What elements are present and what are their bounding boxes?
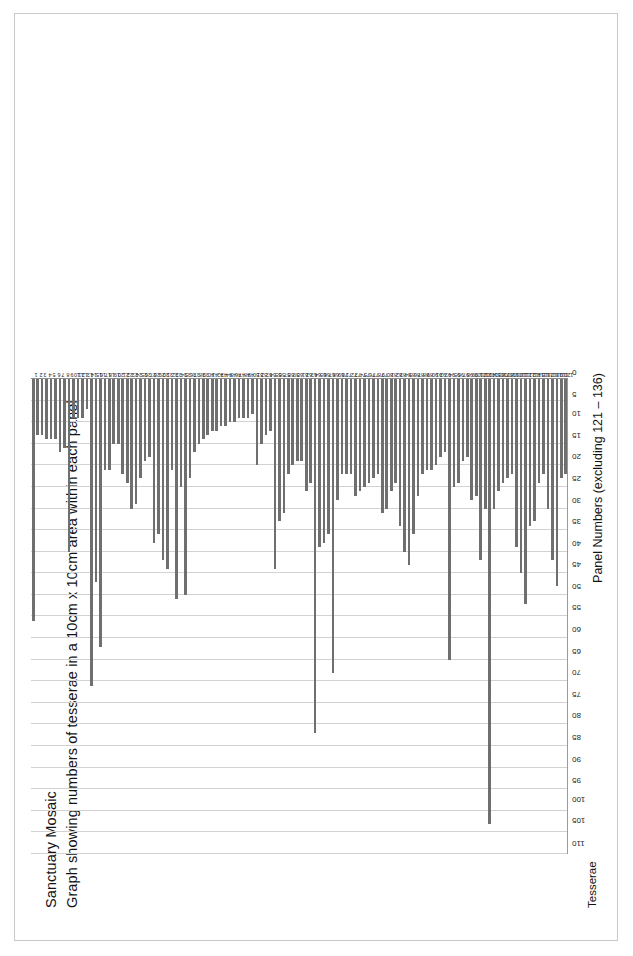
bar	[399, 379, 402, 526]
bar	[135, 379, 138, 504]
bar	[426, 379, 429, 470]
chart-page-frame: Sanctuary Mosaic Graph showing numbers o…	[14, 13, 618, 941]
value-tick-label-40: 40	[572, 538, 581, 547]
bar	[511, 379, 514, 474]
bar	[484, 379, 487, 509]
bar	[283, 379, 286, 513]
bar	[121, 379, 124, 474]
bar	[533, 379, 536, 522]
bar	[256, 379, 259, 465]
bar	[421, 379, 424, 474]
bar	[515, 379, 518, 547]
bar	[542, 379, 545, 474]
bar	[529, 379, 532, 526]
bar	[166, 379, 169, 569]
bar	[305, 379, 308, 491]
bar	[198, 379, 201, 444]
bar	[354, 379, 357, 496]
bar	[32, 379, 35, 621]
bar	[36, 379, 39, 435]
bar	[403, 379, 406, 552]
bar	[314, 379, 317, 733]
rotated-chart-canvas: Sanctuary Mosaic Graph showing numbers o…	[15, 14, 619, 942]
bar	[233, 379, 236, 422]
bar	[59, 379, 62, 452]
category-tick-label: 5	[53, 372, 56, 378]
value-tick-label-80: 80	[572, 711, 581, 720]
bar	[475, 379, 478, 496]
category-tick-label: 4	[48, 372, 51, 378]
category-axis-title: Panel Numbers (excluding 121 – 136)	[591, 14, 605, 942]
bar	[430, 379, 433, 470]
bar	[377, 379, 380, 474]
bar	[95, 379, 98, 582]
bar	[157, 379, 160, 534]
bar	[327, 379, 330, 534]
bar	[296, 379, 299, 461]
bar	[300, 379, 303, 461]
bar	[99, 379, 102, 647]
bar	[117, 379, 120, 444]
bar	[153, 379, 156, 543]
bar	[90, 379, 93, 686]
bar	[520, 379, 523, 573]
value-tick-label-70: 70	[572, 668, 581, 677]
bar	[336, 379, 339, 500]
value-tick-label-10: 10	[572, 409, 581, 418]
bar	[50, 379, 53, 439]
bar	[385, 379, 388, 509]
gridline-105	[31, 831, 568, 832]
bar	[54, 379, 57, 439]
bar	[108, 379, 111, 470]
bar	[556, 379, 559, 586]
bar	[63, 379, 66, 448]
plot-inner: 0510152025303540455055606570758085909510…	[31, 379, 568, 854]
bar	[381, 379, 384, 513]
bar	[453, 379, 456, 487]
bar	[368, 379, 371, 483]
bar	[162, 379, 165, 560]
bar	[139, 379, 142, 478]
bar	[506, 379, 509, 478]
bar	[238, 379, 241, 418]
bar	[448, 379, 451, 660]
bar	[193, 379, 196, 452]
bar	[45, 379, 48, 439]
bar	[309, 379, 312, 483]
bar	[524, 379, 527, 604]
bar	[457, 379, 460, 483]
bar	[41, 379, 44, 435]
bar	[444, 379, 447, 452]
bar	[363, 379, 366, 487]
bar	[470, 379, 473, 500]
value-tick-label-30: 30	[572, 495, 581, 504]
bar	[493, 379, 496, 509]
bar	[274, 379, 277, 569]
bar	[180, 379, 183, 487]
bar	[538, 379, 541, 483]
bar	[417, 379, 420, 496]
bar	[215, 379, 218, 431]
value-tick-label-90: 90	[572, 754, 581, 763]
bar	[502, 379, 505, 483]
category-tick-label: 3	[44, 372, 47, 378]
bar	[242, 379, 245, 418]
value-tick-label-85: 85	[572, 733, 581, 742]
category-tick-label: 7	[62, 372, 65, 378]
value-tick-label-110: 110	[572, 839, 585, 848]
value-tick-label-15: 15	[572, 430, 581, 439]
bar	[291, 379, 294, 465]
bar	[345, 379, 348, 474]
value-tick-label-45: 45	[572, 560, 581, 569]
bar	[390, 379, 393, 491]
value-tick-label-5: 5	[572, 389, 576, 398]
bar	[560, 379, 563, 478]
bar	[318, 379, 321, 547]
value-tick-label-100: 100	[572, 795, 585, 804]
value-tick-label-75: 75	[572, 689, 581, 698]
category-tick-label: 120	[564, 372, 573, 378]
category-tick-label: 1	[35, 372, 38, 378]
gridline-110	[31, 853, 568, 854]
bar	[323, 379, 326, 543]
bar	[220, 379, 223, 427]
